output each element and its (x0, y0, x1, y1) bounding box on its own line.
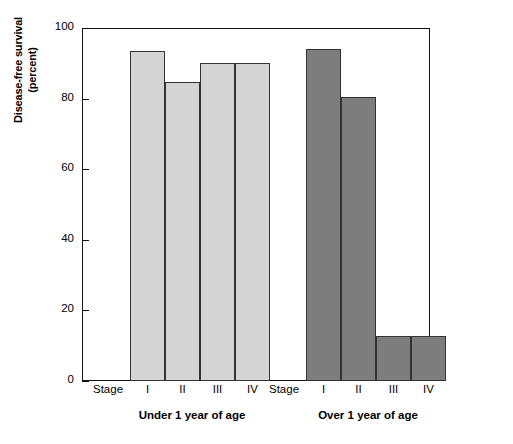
y-axis-title-line2: (percent) (26, 47, 40, 92)
category-axis-labels: StageIIIIIIIVStageIIIIIIIV (82, 383, 430, 401)
bar (411, 336, 446, 381)
y-axis-tick-label: 80 (34, 91, 74, 103)
y-axis-tick-mark (82, 381, 89, 382)
category-tick-label: I (146, 383, 149, 395)
category-tick-label: II (179, 383, 185, 395)
bar (165, 82, 200, 381)
bar (306, 49, 341, 381)
stage-prefix-label: Stage (93, 383, 123, 395)
y-axis-tick-label: 40 (34, 232, 74, 244)
category-tick-label: IV (247, 383, 258, 395)
bar (341, 97, 376, 381)
y-axis-tick-label: 0 (34, 373, 74, 385)
category-tick-label: III (213, 383, 223, 395)
category-tick-label: IV (423, 383, 434, 395)
group-label: Over 1 year of age (318, 409, 418, 421)
bar (200, 63, 235, 381)
bar (235, 63, 270, 381)
group-label: Under 1 year of age (139, 409, 246, 421)
y-axis-tick-label: 100 (34, 20, 74, 32)
stage-prefix-label: Stage (269, 383, 299, 395)
bars-layer (82, 28, 430, 381)
y-axis-tick-label: 20 (34, 302, 74, 314)
y-axis-tick-label: 60 (34, 161, 74, 173)
y-axis-title-line1: Disease-free survival (12, 17, 26, 123)
bar (376, 336, 411, 381)
bar-chart-figure: Disease-free survival (percent) 02040608… (0, 0, 513, 444)
category-tick-label: III (389, 383, 399, 395)
category-tick-label: I (322, 383, 325, 395)
category-tick-label: II (355, 383, 361, 395)
bar (130, 51, 165, 381)
group-axis-labels: Under 1 year of ageOver 1 year of age (82, 409, 430, 427)
